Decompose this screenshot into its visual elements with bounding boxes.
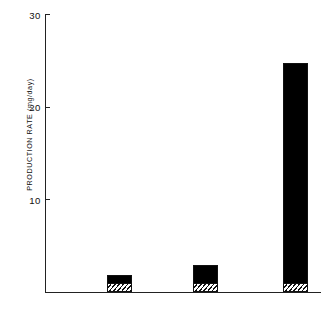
bar-preovul	[193, 265, 218, 292]
y-tick-label-20: 20	[29, 102, 41, 113]
bar-group: MENSES	[107, 275, 132, 292]
bar-hatched-segment	[194, 283, 217, 291]
bar-hatched-segment	[108, 283, 131, 291]
bar-group: PREOVUL	[193, 265, 218, 292]
bar-group: MIDLUTEAL	[283, 63, 308, 292]
bar-menses	[107, 275, 132, 292]
y-tick-label-30: 30	[29, 9, 41, 20]
plot-area: MENSESPREOVULMIDLUTEAL	[45, 0, 321, 292]
bar-midluteal	[283, 63, 308, 292]
production-rate-bar-chart: PRODUCTION RATE (mg/day) 302010 MENSESPR…	[0, 0, 332, 313]
y-tick-label-10: 10	[29, 194, 41, 205]
bar-hatched-segment	[284, 283, 307, 291]
